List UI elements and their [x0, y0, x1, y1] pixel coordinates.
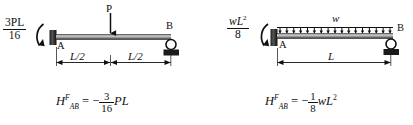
distributed-load-label: w — [332, 12, 339, 24]
moment-label-left: 3PL 16 — [3, 17, 26, 41]
beam-member — [56, 35, 171, 40]
result-denominator: 16 — [99, 103, 114, 114]
result-subscript: AB — [279, 102, 288, 111]
result-equation-left: HFAB = − 3 16 PL — [56, 91, 129, 114]
result-equals: = — [291, 94, 298, 108]
figure-point-load: 3PL 16 A B P L/2 L/2 HFAB = − 3 16 PL — [0, 0, 206, 125]
moment-arrow-icon — [37, 24, 44, 46]
beam-member — [277, 34, 393, 39]
support-a-label: A — [57, 40, 65, 51]
result-superscript: F — [274, 93, 279, 102]
point-load-label: P — [106, 2, 112, 14]
result-numerator: 3 — [99, 91, 114, 103]
dimension-label-1: L — [328, 50, 334, 62]
result-term: PL — [114, 94, 129, 108]
roller-base — [164, 50, 180, 56]
roller-support-b — [166, 40, 176, 50]
support-b-label: B — [166, 20, 173, 31]
moment-label-right: wL2 8 — [227, 16, 249, 40]
result-term-exponent: 2 — [333, 93, 337, 102]
result-superscript: F — [65, 93, 70, 102]
result-numerator: 1 — [308, 91, 317, 103]
support-a-label: A — [279, 39, 287, 50]
support-b-label: B — [397, 22, 404, 33]
moment-denominator: 8 — [227, 29, 249, 41]
dimension-label-2: L/2 — [128, 50, 143, 62]
result-sign: − — [92, 94, 99, 108]
dimension-label-1: L/2 — [70, 50, 85, 62]
result-term: wL — [318, 94, 333, 108]
fixed-support-a — [50, 30, 57, 45]
result-subscript: AB — [70, 102, 79, 111]
figure-uniform-load: wL2 8 A B w L HFAB = − 1 8 wL2 — [207, 0, 413, 125]
roller-base — [384, 49, 400, 55]
roller-support-b — [386, 39, 396, 49]
moment-arrow-icon — [261, 24, 268, 46]
result-symbol: H — [265, 94, 274, 108]
fixed-support-a — [271, 29, 278, 46]
result-denominator: 8 — [308, 103, 317, 114]
distributed-load-arrows — [278, 28, 391, 34]
result-symbol: H — [56, 94, 65, 108]
result-equation-right: HFAB = − 1 8 wL2 — [265, 91, 337, 114]
moment-numerator: 3PL — [3, 17, 26, 30]
result-equals: = — [82, 94, 89, 108]
moment-numerator: wL2 — [227, 16, 249, 29]
moment-denominator: 16 — [3, 30, 26, 42]
result-sign: − — [301, 94, 308, 108]
